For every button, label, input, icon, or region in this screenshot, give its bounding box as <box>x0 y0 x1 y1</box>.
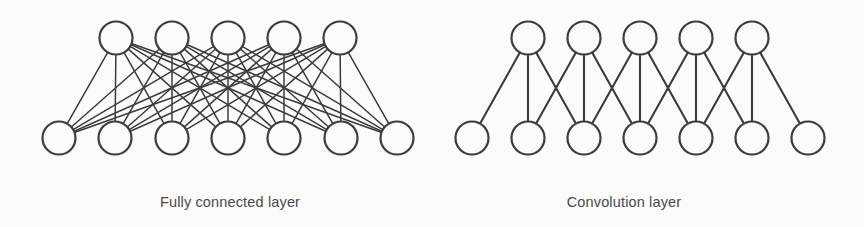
input-node <box>680 122 713 155</box>
caption-fully-connected-layer: Fully connected layer <box>160 194 300 210</box>
network-edge <box>340 53 341 122</box>
network-edge <box>74 43 326 133</box>
output-node <box>156 22 189 55</box>
input-node <box>736 122 769 155</box>
input-node <box>43 122 76 155</box>
input-node <box>99 122 132 155</box>
output-node <box>512 22 545 55</box>
input-node <box>512 122 545 155</box>
network-edge <box>480 52 521 125</box>
output-node <box>736 22 769 55</box>
output-node <box>680 22 713 55</box>
input-node <box>381 122 414 155</box>
network-edge <box>72 46 214 130</box>
output-node <box>268 22 301 55</box>
input-node <box>325 122 358 155</box>
output-node <box>568 22 601 55</box>
figure-root: Fully connected layer Convolution layer <box>0 0 864 227</box>
network-diagram-canvas <box>0 0 864 227</box>
output-node <box>100 22 133 55</box>
input-node <box>568 122 601 155</box>
output-node <box>212 22 245 55</box>
edge-group-fully-connected <box>67 43 390 133</box>
input-node <box>792 122 825 155</box>
input-node <box>156 122 189 155</box>
input-node <box>624 122 657 155</box>
input-node <box>212 122 245 155</box>
input-node <box>268 122 301 155</box>
caption-convolution-layer: Convolution layer <box>567 194 682 210</box>
input-node <box>456 122 489 155</box>
network-edge <box>760 52 801 125</box>
output-node <box>324 22 357 55</box>
output-node <box>624 22 657 55</box>
edge-group-convolution <box>480 52 801 125</box>
